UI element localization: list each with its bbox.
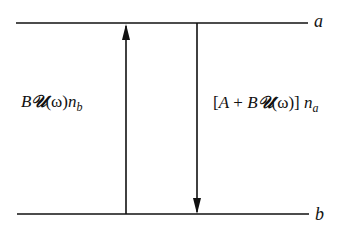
level-a-label: a (314, 12, 323, 30)
coefficient-B: B (21, 92, 31, 111)
coefficient-A: A (219, 93, 229, 112)
emission-rate-label: [A + B𝒰(ω)] na (213, 94, 318, 111)
plus-sign: + (229, 93, 247, 112)
subscript-a: a (312, 101, 318, 115)
downward-arrow-emission (193, 23, 201, 214)
omega-argument: (ω) (45, 92, 68, 111)
upward-arrow-absorption (122, 24, 130, 214)
subscript-b: b (76, 100, 82, 114)
absorption-rate-label: B𝒰(ω)nb (21, 93, 82, 110)
level-b-label: b (315, 205, 324, 223)
energy-level-diagram (0, 0, 364, 232)
energy-density-symbol: 𝒰 (258, 92, 272, 112)
coefficient-B: B (247, 93, 257, 112)
population-n: n (300, 93, 313, 112)
omega-argument: (ω) (272, 93, 295, 112)
energy-density-symbol: 𝒰 (31, 91, 45, 111)
